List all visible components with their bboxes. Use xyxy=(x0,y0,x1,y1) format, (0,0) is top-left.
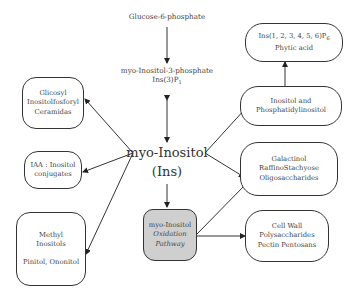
methyl-line1: Methyl xyxy=(39,231,63,241)
node-iaa-inositol-conjugates: IAA : Inositol conjugates xyxy=(24,151,82,189)
node-galactinol-raffinose: Galactinol RaffinoStachyose Oligosacchar… xyxy=(240,142,338,196)
mi3p-subscript: 1 xyxy=(179,79,182,85)
galactinol-line3: Oligosaccharides xyxy=(259,174,318,184)
node-inositol-phosphatidylinositol: Inositol and Phosphatidylinositol xyxy=(240,86,342,126)
myo-inositol-3-phosphate-label: myo-Inositol-3-phosphate Ins(3)P1 xyxy=(112,66,222,87)
glycosyl-line2: Inositolfosforyl xyxy=(27,98,79,108)
center-line2: (Ins) xyxy=(117,162,217,181)
oxidation-line2: Oxidation xyxy=(153,230,186,240)
glycosyl-line1: Glicosyl xyxy=(39,89,66,99)
oxidation-line3: Pathway xyxy=(155,240,184,250)
galactinol-line1: Galactinol xyxy=(271,155,306,165)
phytic-line1: Ins(1, 2, 3, 4, 5, 6)P6 xyxy=(258,32,329,44)
myo-inositol-center-node: myo-Inositol (Ins) xyxy=(117,143,217,181)
node-myo-inositol-oxidation-pathway: myo-Inositol Oxidation Pathway xyxy=(143,209,197,261)
cellwall-line1: Cell Wall xyxy=(272,222,303,232)
phytic-line2: Phytic acid xyxy=(275,44,313,54)
oxidation-line1: myo-Inositol xyxy=(149,221,192,231)
glycosyl-line3: Ceramidas xyxy=(34,108,71,118)
phytic-formula: Ins(1, 2, 3, 4, 5, 6)P xyxy=(258,32,326,40)
node-cell-wall-polysaccharides: Cell Wall Polysaccharides Pectin Pentosa… xyxy=(245,210,329,262)
glucose-6-phosphate-label: Glucose-6-phosphate xyxy=(117,12,217,21)
node-methyl-inositols: Methyl Inositols Pinitol, Ononitol xyxy=(16,212,86,286)
galactinol-line2: RaffinoStachyose xyxy=(259,164,319,174)
node-glycosyl-inositolphosphoryl-ceramides: Glicosyl Inositolfosforyl Ceramidas xyxy=(22,77,84,129)
methyl-line2: Inositols xyxy=(36,240,65,250)
mi3p-line2: Ins(3)P1 xyxy=(112,75,222,87)
node-phytic-acid: Ins(1, 2, 3, 4, 5, 6)P6 Phytic acid xyxy=(245,23,343,62)
inositol-pi-line2: Phosphatidylinositol xyxy=(256,106,326,116)
inositol-pi-line1: Inositol and xyxy=(271,97,312,107)
iaa-line2: conjugates xyxy=(34,170,71,180)
cellwall-line3: Pectin Pentosans xyxy=(258,241,316,251)
iaa-line1: IAA : Inositol xyxy=(31,161,76,171)
edge-oxidation-to-galactinol xyxy=(197,185,245,234)
center-line1: myo-Inositol xyxy=(117,143,217,162)
phytic-subscript: 6 xyxy=(326,35,329,41)
cellwall-line2: Polysaccharides xyxy=(259,231,314,241)
methyl-line3: Pinitol, Ononitol xyxy=(23,258,79,268)
mi3p-formula: Ins(3)P xyxy=(152,75,178,84)
mi3p-line1: myo-Inositol-3-phosphate xyxy=(112,66,222,75)
